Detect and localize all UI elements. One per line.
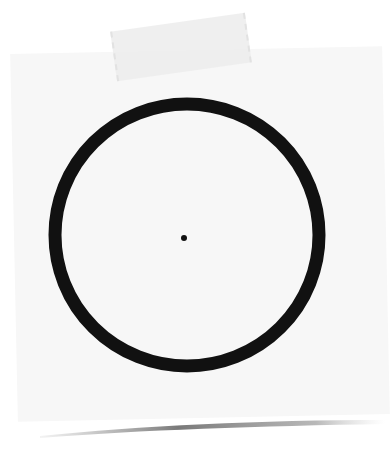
- center-dot: [181, 235, 187, 241]
- circle-shape: [55, 104, 319, 366]
